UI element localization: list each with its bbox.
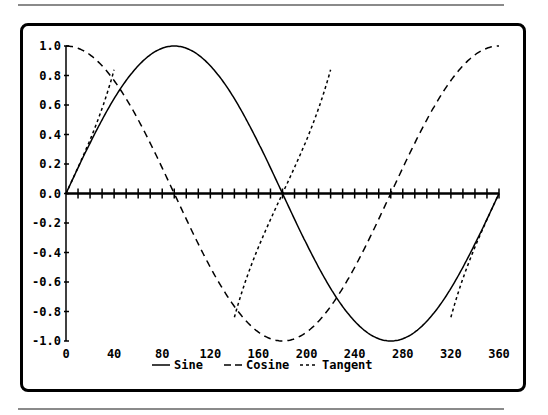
x-tick-label: 280 [392,347,414,361]
y-tick-label: 1.0 [39,39,61,53]
legend: SineCosineTangent [152,358,373,372]
x-tick-label: 360 [488,347,510,361]
y-axis-labels: 1.00.80.60.40.20.0-0.2-0.4-0.6-0.8-1.0 [32,39,61,348]
y-tick-label: 0.4 [39,128,61,142]
cosine-legend-label: Cosine [246,358,289,372]
y-tick-label: -0.8 [32,305,61,319]
x-tick-label: 320 [440,347,462,361]
sine-legend-label: Sine [174,358,203,372]
x-tick-label: 80 [155,347,169,361]
tangent-curve-segment [66,70,114,194]
x-tick-label: 0 [62,347,69,361]
tangent-legend-label: Tangent [322,358,373,372]
tangent-curve-segment [451,194,499,318]
y-tick-label: 0.0 [39,187,61,201]
y-tick-label: 0.8 [39,69,61,83]
y-tick-label: 0.6 [39,98,61,112]
y-tick-label: -1.0 [32,334,61,348]
chart-plot: 1.00.80.60.40.20.0-0.2-0.4-0.6-0.8-1.0 0… [0,0,548,415]
y-tick-label: 0.2 [39,157,61,171]
bottom-divider [18,408,504,410]
y-tick-label: -0.6 [32,275,61,289]
x-tick-label: 40 [107,347,121,361]
y-tick-label: -0.4 [32,246,61,260]
y-tick-label: -0.2 [32,216,61,230]
x-tick-label: 200 [296,347,318,361]
